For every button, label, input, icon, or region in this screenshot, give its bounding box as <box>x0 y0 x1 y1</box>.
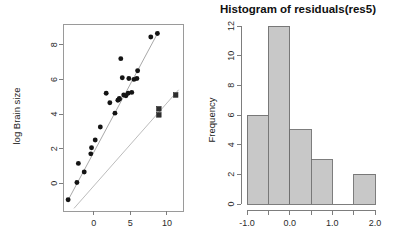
scatter-y-tick-label: 4 <box>49 112 59 117</box>
histogram-y-tick-label: 4 <box>226 142 236 147</box>
histogram-bar <box>311 160 332 205</box>
plot-canvas: 051002468 log Brain size Histogram of re… <box>0 0 394 233</box>
histogram-bar <box>354 174 375 204</box>
scatter-point <box>93 138 98 143</box>
scatter-point-square <box>157 107 162 112</box>
scatter-plot-frame <box>63 24 183 211</box>
scatter-x-tick-label: 5 <box>128 218 133 228</box>
histogram-y-tick-label: 12 <box>226 21 236 31</box>
histogram-y-tick-label: 8 <box>226 83 236 88</box>
histogram-bar <box>290 130 311 204</box>
scatter-point <box>88 151 93 156</box>
scatter-point <box>118 56 123 61</box>
histogram-bar <box>268 26 289 204</box>
scatter-point-square <box>173 93 178 98</box>
histogram-y-tick-label: 0 <box>226 201 236 206</box>
scatter-fit-upper <box>67 31 158 202</box>
histogram-y-tick-label: 2 <box>226 172 236 177</box>
histogram-y-tick-label: 6 <box>226 112 236 117</box>
scatter-x-tick-label: 10 <box>162 218 172 228</box>
scatter-point <box>76 161 81 166</box>
scatter-point <box>104 91 109 96</box>
scatter-point <box>129 90 134 95</box>
scatter-x-tick-label: 0 <box>91 218 96 228</box>
scatter-y-axis-title: log Brain size <box>11 87 22 144</box>
histogram-title: Histogram of residuals(res5) <box>220 3 376 15</box>
histogram-y-tick-label: 10 <box>226 51 236 61</box>
histogram-y-axis-title: Frequency <box>206 97 217 142</box>
scatter-y-tick-label: 0 <box>49 181 59 186</box>
histogram-x-tick-label: 2.0 <box>369 218 382 228</box>
scatter-plot-panel: 051002468 log Brain size <box>0 0 197 233</box>
scatter-point <box>113 111 118 116</box>
histogram-x-tick-label: 0.0 <box>283 218 296 228</box>
scatter-point-square <box>157 113 162 118</box>
scatter-point <box>120 75 125 80</box>
scatter-point <box>155 31 160 36</box>
scatter-point <box>148 35 153 40</box>
scatter-point <box>98 125 103 130</box>
scatter-point <box>135 68 140 73</box>
scatter-plot-svg: 051002468 log Brain size <box>0 0 197 233</box>
histogram-bar <box>247 115 268 204</box>
histogram-x-tick-label: -1.0 <box>239 218 255 228</box>
histogram-svg: Histogram of residuals(res5) 024681012-1… <box>197 0 394 233</box>
scatter-y-tick-label: 8 <box>49 42 59 47</box>
scatter-point <box>117 96 122 101</box>
scatter-y-tick-label: 2 <box>49 146 59 151</box>
scatter-point <box>66 197 71 202</box>
scatter-point <box>107 100 112 105</box>
scatter-point <box>82 170 87 175</box>
scatter-point <box>134 76 139 81</box>
scatter-y-tick-label: 6 <box>49 77 59 82</box>
scatter-point <box>89 145 94 150</box>
histogram-x-tick-label: 1.0 <box>326 218 339 228</box>
scatter-point <box>126 76 131 81</box>
histogram-panel: Histogram of residuals(res5) 024681012-1… <box>197 0 394 233</box>
scatter-point <box>74 180 79 185</box>
